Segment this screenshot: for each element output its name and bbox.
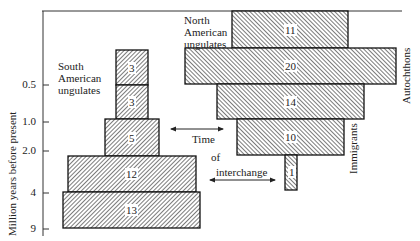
south-bar-value-2: 5 [128, 132, 136, 144]
of-label: of [211, 151, 220, 163]
autochthons-label: Autochthons [400, 48, 412, 104]
north-bar-value-2: 14 [284, 96, 297, 108]
north-bar-value-1: 20 [284, 60, 297, 72]
south-bar-value-3: 12 [125, 168, 138, 180]
north-bar-value-3: 10 [284, 131, 297, 143]
time-label: Time [192, 133, 215, 145]
south-american-label: South American ungulates [58, 60, 101, 96]
y-tick-label-0: 0.5 [6, 78, 36, 90]
south-label-line-0: South [58, 60, 101, 72]
north-label-line-1: American [184, 26, 227, 38]
south-bar-value-1: 3 [128, 96, 136, 108]
north-american-label: North American ungulates [184, 14, 227, 50]
north-bar-value-4: 1 [288, 166, 296, 178]
y-axis-label: Million years before present [6, 112, 18, 236]
south-label-line-1: American [58, 72, 101, 84]
y-axis-ticks [43, 85, 49, 229]
south-bar-value-4: 13 [125, 204, 138, 216]
north-label-line-0: North [184, 14, 227, 26]
immigrants-label: Immigrants [347, 123, 359, 174]
south-label-line-2: ungulates [58, 84, 101, 96]
north-bar-value-0: 11 [284, 24, 297, 36]
south-bar-value-0: 3 [128, 62, 136, 74]
interchange-label: interchange [216, 166, 267, 178]
north-label-line-2: ungulates [184, 38, 227, 50]
